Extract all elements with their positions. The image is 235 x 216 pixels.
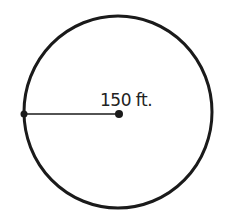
center-point	[115, 110, 123, 118]
radius-label: 150 ft.	[100, 90, 152, 110]
circle-diagram: 150 ft.	[0, 0, 235, 216]
edge-point	[21, 111, 28, 118]
